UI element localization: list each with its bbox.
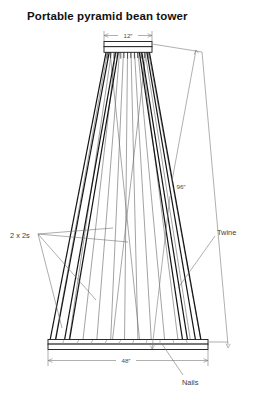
callout-posts-leaders [38, 228, 128, 328]
callout-nails-label: Nails [182, 378, 199, 387]
diagram-root: Portable pyramid bean tower [0, 0, 256, 404]
callout-twine-label: Twine [217, 228, 236, 237]
dimension-height-label: 96″ [176, 183, 186, 190]
top-cap [104, 42, 152, 53]
dimension-top-width-label: 12″ [123, 32, 133, 39]
callout-posts-label: 2 x 2s [10, 231, 30, 240]
post-2x2-group [50, 50, 202, 343]
base-plank [48, 340, 208, 350]
dimension-base-width-label: 48″ [121, 357, 131, 364]
twine-cross-lines [110, 52, 146, 344]
height-reference-line [202, 52, 230, 348]
pyramid-tower-drawing: 12″ 96″ 48″ [0, 0, 256, 404]
